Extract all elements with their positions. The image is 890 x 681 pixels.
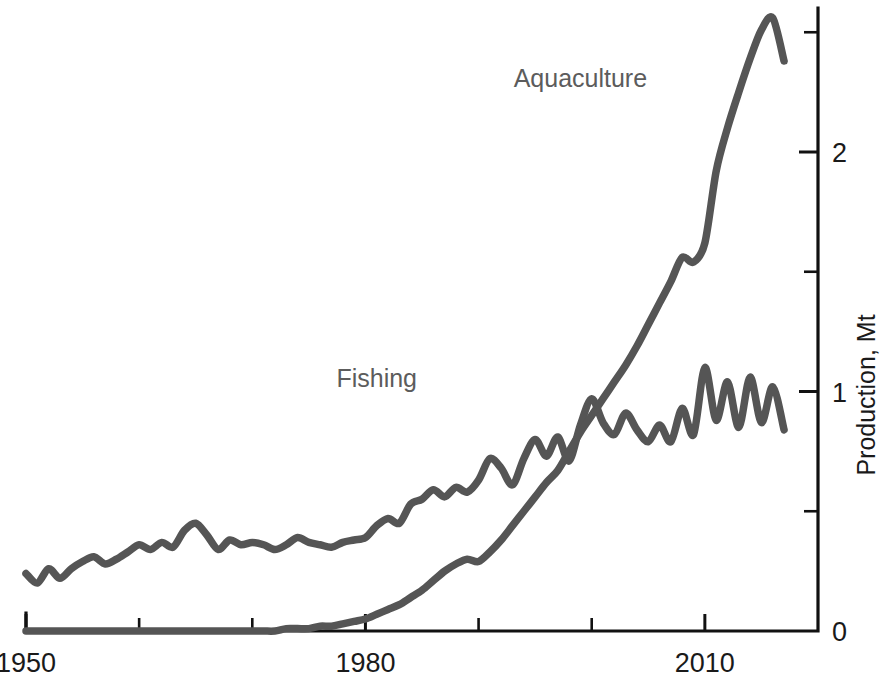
annotation-aquaculture: Aquaculture [514,64,647,92]
y-tick-label: 1 [832,378,847,408]
y-axis-title: Production, Mt [852,314,880,475]
series-group [26,17,784,631]
annotation-fishing: Fishing [336,364,417,392]
page-caption-strip [0,667,890,681]
line-chart: 195019802010 012 FishingAquaculture Prod… [0,0,890,681]
y-tick-label: 2 [832,138,847,168]
series-line-aquaculture [26,17,784,631]
x-axis-line [26,8,818,631]
series-line-fishing [26,367,784,583]
chart-container: 195019802010 012 FishingAquaculture Prod… [0,0,890,681]
series-annotations: FishingAquaculture [336,64,647,391]
y-axis-tick-labels: 012 [832,138,847,647]
y-axis-ticks [799,32,819,511]
y-tick-label: 0 [832,617,847,647]
axes-group [26,8,818,631]
